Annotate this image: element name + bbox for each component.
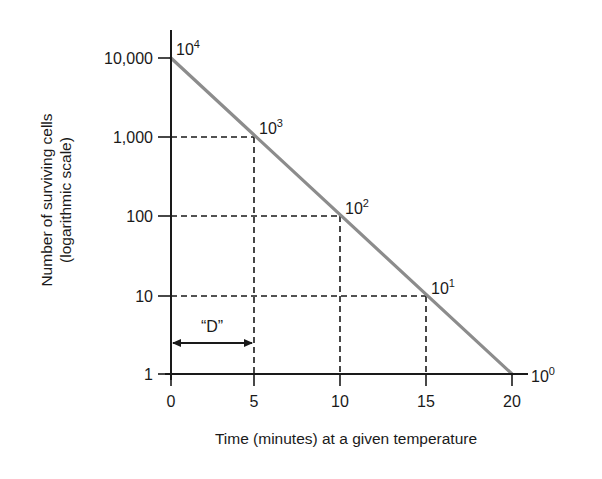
x-tick-labels: 0 5 10 15 20 (167, 393, 521, 410)
y-axis-title-line2: (logarithmic scale) (57, 137, 74, 263)
point-labels: 104 103 102 101 100 (176, 38, 555, 385)
chart-figure: 10,000 1,000 100 10 1 0 5 10 15 20 Time … (0, 0, 602, 479)
x-tick-label: 5 (250, 393, 259, 410)
y-tick-labels: 10,000 1,000 100 10 1 (104, 50, 153, 383)
x-tick-label: 10 (331, 393, 349, 410)
y-tick-label: 10,000 (104, 50, 153, 67)
guide-lines (171, 137, 426, 374)
point-label-10e2: 102 (345, 197, 369, 217)
y-axis-title: Number of surviving cells (logarithmic s… (38, 113, 74, 286)
point-label-10e1: 101 (431, 277, 455, 297)
x-tick-label: 15 (417, 393, 435, 410)
y-tick-label: 1 (144, 366, 153, 383)
y-tick-label: 1,000 (113, 129, 153, 146)
point-label-10e4: 104 (176, 38, 200, 58)
y-tick-label: 100 (126, 208, 153, 225)
y-tick-label: 10 (135, 288, 153, 305)
x-tick-label: 20 (503, 393, 521, 410)
x-tick-label: 0 (167, 393, 176, 410)
x-axis-title: Time (minutes) at a given temperature (215, 430, 477, 447)
point-label-10e0: 100 (531, 365, 555, 385)
point-label-10e3: 103 (259, 117, 283, 137)
d-value-label: “D” (201, 318, 223, 335)
y-ticks (158, 58, 171, 374)
y-axis-title-line1: Number of surviving cells (38, 113, 55, 286)
x-ticks (171, 374, 512, 386)
